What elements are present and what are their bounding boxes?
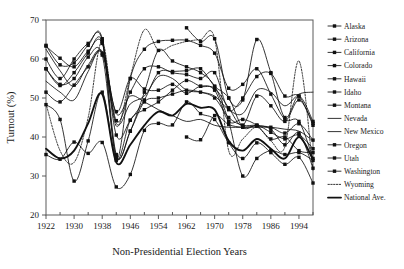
data-point: [241, 157, 244, 160]
data-point: [227, 106, 230, 109]
plot-frame: [46, 20, 313, 215]
data-point: [44, 153, 47, 156]
data-point: [101, 141, 104, 144]
legend-item-oregon[interactable]: Oregon: [328, 141, 367, 150]
series-layer: [44, 26, 314, 189]
legend-item-arizona[interactable]: Arizona: [328, 35, 369, 44]
data-point: [171, 89, 174, 92]
x-tick-label: 1970: [206, 221, 225, 231]
data-point: [297, 151, 300, 154]
data-point: [199, 112, 202, 115]
legend-label: Washington: [344, 167, 380, 176]
legend-label: Idaho: [344, 88, 361, 97]
legend-item-washington[interactable]: Washington: [328, 167, 380, 176]
data-point: [241, 96, 244, 99]
data-point: [58, 77, 61, 80]
data-point: [44, 44, 47, 47]
legend-swatch-marker: [333, 64, 336, 67]
data-point: [213, 114, 216, 117]
data-point: [157, 89, 160, 92]
legend-item-utah[interactable]: Utah: [328, 154, 359, 163]
data-point: [143, 129, 146, 132]
legend-item-alaska[interactable]: Alaska: [328, 22, 366, 31]
data-point: [297, 131, 300, 134]
data-point: [171, 123, 174, 126]
series-line: [46, 31, 313, 159]
legend-item-new-mexico[interactable]: New Mexico: [328, 127, 384, 136]
legend-item-idaho[interactable]: Idaho: [328, 88, 361, 97]
legend-swatch-marker: [333, 77, 336, 80]
series-line: [46, 93, 313, 164]
data-point: [157, 100, 160, 103]
data-point: [199, 85, 202, 88]
legend-swatch-marker: [333, 51, 336, 54]
data-point: [311, 147, 314, 150]
x-tick-label: 1938: [93, 221, 112, 231]
data-point: [213, 96, 216, 99]
legend-swatch-marker: [333, 143, 336, 146]
data-point: [143, 100, 146, 103]
y-tick-label: 70: [30, 15, 40, 25]
data-point: [171, 59, 174, 62]
legend-item-hawaii[interactable]: Hawaii: [328, 75, 366, 84]
series-line: [46, 102, 313, 189]
data-point: [199, 40, 202, 43]
data-point: [213, 51, 216, 54]
data-point: [129, 90, 132, 93]
legend-item-nevada[interactable]: Nevada: [328, 114, 368, 123]
y-axis-title: Turnout (%): [5, 91, 17, 143]
turnout-line-chart: 2030405060701922193019381946195419621970…: [0, 0, 404, 269]
data-point: [58, 118, 61, 121]
legend-swatch-marker: [333, 24, 336, 27]
data-point: [241, 124, 244, 127]
data-point: [143, 108, 146, 111]
data-point: [143, 48, 146, 51]
data-point: [58, 57, 61, 60]
data-point: [213, 85, 216, 88]
data-point: [283, 94, 286, 97]
legend-item-california[interactable]: California: [328, 48, 375, 57]
legend-item-montana[interactable]: Montana: [328, 101, 372, 110]
data-point: [241, 174, 244, 177]
data-point: [297, 156, 300, 159]
data-point: [44, 57, 47, 60]
data-point: [199, 77, 202, 80]
data-point: [101, 53, 104, 56]
data-point: [157, 65, 160, 68]
y-tick-label: 20: [30, 210, 40, 220]
data-point: [44, 90, 47, 93]
data-point: [255, 157, 258, 160]
data-point: [241, 118, 244, 121]
legend: AlaskaArizonaCaliforniaColoradoHawaiiIda…: [328, 22, 386, 203]
legend-label: Utah: [344, 154, 359, 163]
legend-label: Wyoming: [344, 180, 374, 189]
legend-item-colorado[interactable]: Colorado: [328, 61, 372, 70]
data-point: [86, 42, 89, 45]
data-point: [185, 73, 188, 76]
data-point: [255, 75, 258, 78]
series-california: [44, 51, 314, 154]
x-tick-label: 1962: [178, 221, 196, 231]
data-point: [199, 44, 202, 47]
data-point: [72, 71, 75, 74]
data-point: [157, 71, 160, 74]
data-point: [269, 72, 272, 75]
data-point: [129, 129, 132, 132]
data-point: [58, 83, 61, 86]
y-tick-label: 60: [30, 54, 40, 64]
x-tick-label: 1986: [262, 221, 281, 231]
data-point: [115, 133, 118, 136]
legend-label: Arizona: [344, 35, 369, 44]
data-point: [157, 96, 160, 99]
data-point: [283, 120, 286, 123]
legend-label: Oregon: [344, 141, 367, 150]
data-point: [157, 122, 160, 125]
data-point: [227, 96, 230, 99]
legend-swatch-marker: [333, 170, 336, 173]
legend-swatch-marker: [333, 38, 336, 41]
data-point: [185, 135, 188, 138]
legend-item-wyoming[interactable]: Wyoming: [328, 180, 374, 189]
data-point: [58, 63, 61, 66]
data-point: [185, 69, 188, 72]
legend-item-national-ave[interactable]: National Ave.: [328, 193, 386, 202]
